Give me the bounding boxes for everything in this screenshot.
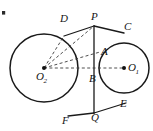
center-dot-O1: [122, 66, 126, 70]
segment-D-P: [64, 26, 94, 36]
scan-artifact-mark: [2, 11, 5, 15]
point-label-A: A: [101, 46, 108, 57]
o1-subscript: 1: [135, 68, 139, 76]
point-label-D: D: [60, 13, 68, 24]
point-label-O2: O2: [36, 71, 47, 85]
point-label-O1: O1: [128, 62, 139, 76]
point-label-Q: Q: [91, 112, 99, 123]
point-label-B: B: [89, 73, 96, 84]
point-label-P: P: [91, 11, 98, 22]
point-label-F: F: [62, 115, 69, 126]
radius-O2-A: [44, 52, 100, 68]
point-label-C: C: [124, 21, 131, 32]
point-label-E: E: [120, 98, 127, 109]
geometry-figure: D P C A B O1 O2 E Q F: [0, 0, 153, 131]
o2-subscript: 2: [43, 77, 47, 85]
radius-O2-P: [44, 26, 94, 68]
segment-P-C: [94, 26, 124, 33]
